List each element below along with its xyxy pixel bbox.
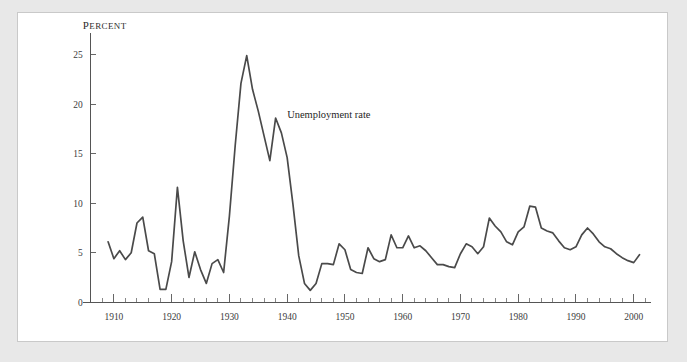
y-axis-tick-label: 15 [73,149,83,159]
x-axis-tick-label: 1960 [393,312,412,322]
y-axis-tick-label: 0 [78,298,83,308]
series-group [108,56,639,291]
x-axis-tick-label: 1930 [220,312,239,322]
x-axis-tick-label: 1910 [104,312,123,322]
chart-surface: PERCENT 0510152025 191019201930194019501… [18,13,667,341]
x-axis-tick-label: 1940 [278,312,297,322]
figure-frame: PERCENT 0510152025 191019201930194019501… [17,12,668,342]
series-line-unemployment-rate [108,56,639,291]
y-axis-title-label: PERCENT [83,19,127,31]
x-axis-tick-label: 1980 [509,312,528,322]
unemployment-rate-line-chart: PERCENT 0510152025 191019201930194019501… [18,13,667,341]
y-axis-tick-label: 20 [73,100,83,110]
y-axis-tick-label: 10 [73,199,83,209]
y-axis: 0510152025 [73,33,95,308]
x-axis-tick-label: 1920 [162,312,181,322]
y-axis-title: PERCENT [83,19,127,31]
x-axis-tick-label: 1950 [335,312,354,322]
x-axis: 1910192019301940195019601970198019902000 [83,294,651,322]
y-axis-tick-label: 5 [78,248,83,258]
series-annotation-label: Unemployment rate [287,109,371,120]
x-axis-tick-label: 2000 [624,312,643,322]
y-axis-tick-label: 25 [73,50,83,60]
chart-annotations: Unemployment rate [287,109,371,120]
x-axis-tick-label: 1970 [451,312,470,322]
x-axis-tick-label: 1990 [567,312,586,322]
